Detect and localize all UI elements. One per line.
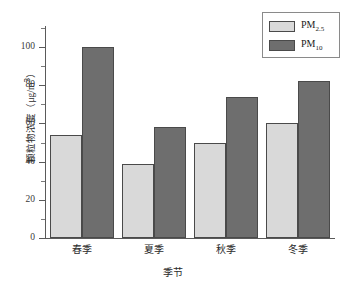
x-category-label: 春季 (52, 244, 112, 255)
y-tick-major (39, 47, 45, 48)
legend-label-PM10: PM10 (301, 38, 322, 52)
bar-秋季-PM2.5 (194, 143, 226, 238)
bar-春季-PM10 (82, 47, 114, 238)
legend: PM2.5PM10 (262, 12, 340, 58)
legend-item-PM2.5[interactable]: PM2.5 (269, 18, 339, 34)
legend-swatch-PM10 (269, 40, 295, 51)
y-tick-major (39, 200, 45, 201)
bar-春季-PM2.5 (50, 135, 82, 238)
bar-夏季-PM2.5 (122, 164, 154, 238)
legend-item-PM10[interactable]: PM10 (269, 37, 339, 53)
plot-area (46, 28, 334, 238)
x-category-label: 秋季 (196, 244, 256, 255)
legend-swatch-PM2.5 (269, 21, 295, 32)
x-category-label: 夏季 (124, 244, 184, 255)
chart-figure: 020406080100 春季夏季秋季冬季 季节 颗粒物浓度（μg/m3） PM… (0, 0, 346, 288)
y-tick-label: 0 (5, 233, 35, 243)
y-tick-major (39, 123, 45, 124)
y-axis-title-text: 颗粒物浓度（ (25, 103, 36, 163)
y-tick-label: 20 (5, 195, 35, 205)
bar-秋季-PM10 (226, 97, 258, 238)
y-tick-minor (41, 219, 45, 220)
y-axis-unit-exponent: 3 (23, 78, 32, 83)
x-axis-line (45, 238, 335, 239)
y-tick-minor (41, 143, 45, 144)
y-tick-minor (41, 28, 45, 29)
y-axis-title: 颗粒物浓度（μg/m3） (23, 35, 37, 195)
y-axis-title-close: ） (25, 68, 36, 78)
bar-冬季-PM2.5 (266, 123, 298, 238)
legend-label-PM2.5: PM2.5 (301, 19, 324, 33)
y-axis-unit: μg/m (26, 83, 36, 103)
bar-冬季-PM10 (298, 81, 330, 238)
x-axis-title: 季节 (0, 264, 346, 279)
y-tick-major (39, 162, 45, 163)
y-tick-minor (41, 181, 45, 182)
y-tick-major (39, 85, 45, 86)
bar-夏季-PM10 (154, 127, 186, 238)
x-category-label: 冬季 (268, 244, 328, 255)
y-tick-major (39, 238, 45, 239)
y-tick-minor (41, 104, 45, 105)
y-tick-minor (41, 66, 45, 67)
